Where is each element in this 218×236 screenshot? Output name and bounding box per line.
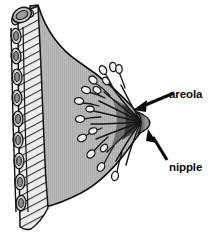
areola-arrow — [133, 93, 174, 112]
nipple-arrow — [146, 129, 167, 160]
breast-anatomy-figure: areola nipple — [0, 0, 218, 236]
label-areola: areola — [169, 89, 202, 101]
label-nipple: nipple — [169, 162, 202, 174]
anatomy-illustration — [0, 0, 218, 236]
